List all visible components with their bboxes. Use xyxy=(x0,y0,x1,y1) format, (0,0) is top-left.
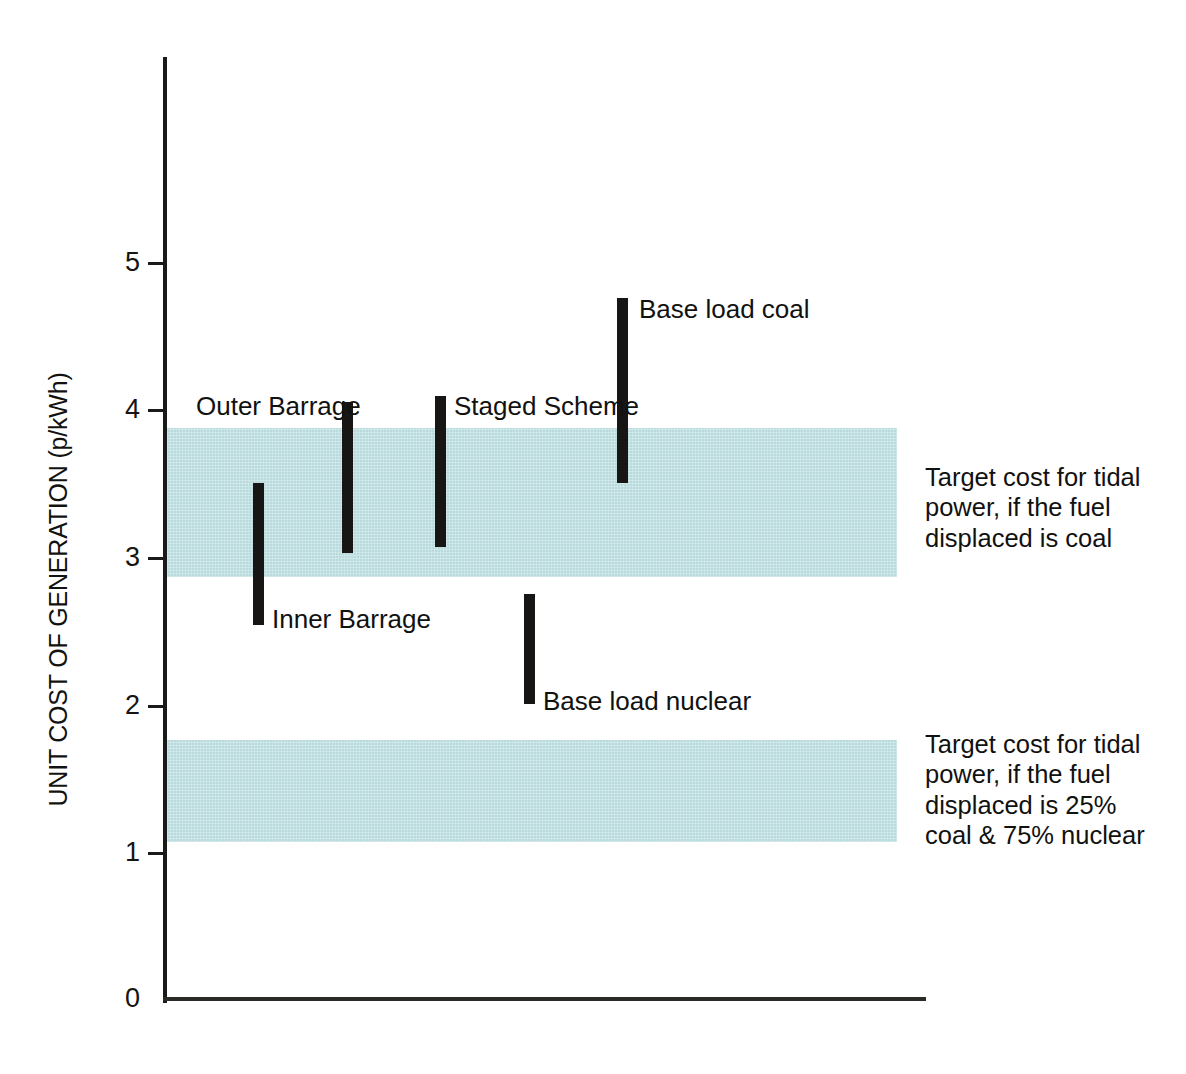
chart-figure: 5 4 3 2 1 0 UNIT COST OF GENERATION (p/k… xyxy=(0,0,1186,1074)
y-axis-line xyxy=(163,57,167,1003)
annotation-target-mixed: Target cost for tidal power, if the fuel… xyxy=(925,729,1185,850)
annotation-target-coal-line1: Target cost for tidal xyxy=(925,462,1185,492)
x-axis-line xyxy=(163,997,926,1001)
annotation-target-mixed-line4: coal & 75% nuclear xyxy=(925,820,1185,850)
y-tick-5 xyxy=(148,262,165,265)
target-band-coal xyxy=(167,428,897,577)
series-label-inner-barrage: Inner Barrage xyxy=(272,606,431,632)
y-tick-1 xyxy=(148,852,165,855)
annotation-target-mixed-line3: displaced is 25% xyxy=(925,790,1185,820)
annotation-target-coal: Target cost for tidal power, if the fuel… xyxy=(925,462,1185,553)
series-label-base-load-nuclear: Base load nuclear xyxy=(543,688,751,714)
plot-area: 5 4 3 2 1 0 UNIT COST OF GENERATION (p/k… xyxy=(0,0,1186,1074)
annotation-target-coal-line2: power, if the fuel xyxy=(925,492,1185,522)
annotation-target-coal-line3: displaced is coal xyxy=(925,523,1185,553)
y-tick-label-4: 4 xyxy=(100,396,140,423)
annotation-target-mixed-line1: Target cost for tidal xyxy=(925,729,1185,759)
y-tick-label-5: 5 xyxy=(100,249,140,276)
series-label-outer-barrage: Outer Barrage xyxy=(196,393,361,419)
range-bar-inner-barrage xyxy=(253,483,264,625)
y-tick-label-2: 2 xyxy=(100,692,140,719)
range-bar-staged-scheme xyxy=(435,396,446,547)
y-axis-title: UNIT COST OF GENERATION (p/kWh) xyxy=(44,310,73,870)
target-band-mixed xyxy=(167,740,897,842)
series-label-base-load-coal: Base load coal xyxy=(639,296,810,322)
range-bar-base-load-nuclear xyxy=(524,594,535,704)
range-bar-outer-barrage xyxy=(342,402,353,553)
annotation-target-mixed-line2: power, if the fuel xyxy=(925,759,1185,789)
y-tick-4 xyxy=(148,409,165,412)
y-tick-2 xyxy=(148,705,165,708)
y-tick-label-0: 0 xyxy=(100,985,140,1012)
y-tick-3 xyxy=(148,557,165,560)
y-tick-label-1: 1 xyxy=(100,839,140,866)
y-tick-label-3: 3 xyxy=(100,544,140,571)
series-label-staged-scheme: Staged Scheme xyxy=(454,393,639,419)
